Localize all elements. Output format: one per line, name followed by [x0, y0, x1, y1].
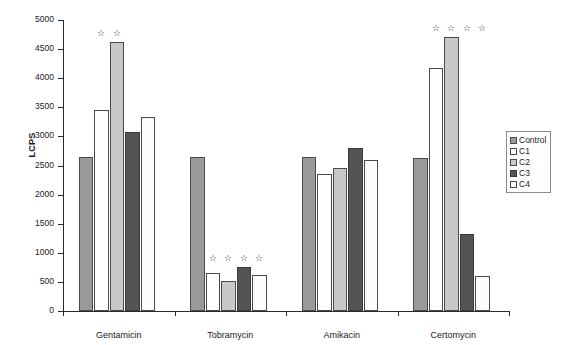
legend-item-label: C4 — [519, 180, 530, 189]
y-tick-label: 0 — [14, 305, 54, 315]
significance-star: ☆ — [253, 254, 265, 263]
x-axis-category-label: Gentamicin — [63, 330, 175, 340]
bar-tobramycin-c3 — [237, 267, 252, 311]
legend-swatch-icon — [510, 137, 517, 144]
y-tick-label: 2500 — [14, 160, 54, 170]
x-axis-category-label: Amikacin — [286, 330, 398, 340]
legend-item-c1[interactable]: C1 — [510, 146, 546, 156]
bar-gentamicin-c4 — [141, 117, 156, 311]
legend-item-label: C3 — [519, 169, 530, 178]
y-tick-mark — [58, 166, 64, 167]
bar-chart-figure: LCPS 50004500400035003000250020001500100… — [0, 0, 572, 345]
bar-amikacin-c2 — [333, 168, 348, 311]
bar-amikacin-c3 — [348, 148, 363, 311]
significance-star: ☆ — [238, 254, 250, 263]
bar-amikacin-c4 — [364, 160, 379, 311]
legend-swatch-icon — [510, 181, 517, 188]
significance-star: ☆ — [95, 29, 107, 38]
y-tick-label: 1000 — [14, 247, 54, 257]
legend-swatch-icon — [510, 159, 517, 166]
chart-legend: ControlC1C2C3C4 — [506, 131, 551, 193]
legend-item-label: Control — [519, 136, 546, 145]
legend-item-control[interactable]: Control — [510, 135, 546, 145]
y-tick-mark — [58, 224, 64, 225]
y-tick-mark — [58, 49, 64, 50]
y-tick-mark — [58, 136, 64, 137]
significance-star: ☆ — [111, 29, 123, 38]
x-axis-category-label: Tobramycin — [175, 330, 287, 340]
significance-star: ☆ — [476, 24, 488, 33]
y-tick-label: 4000 — [14, 72, 54, 82]
y-tick-mark — [58, 253, 64, 254]
y-tick-label: 5000 — [14, 14, 54, 24]
bar-gentamicin-c1 — [94, 110, 109, 311]
y-tick-mark — [58, 195, 64, 196]
bar-tobramycin-c2 — [221, 281, 236, 311]
x-axis-tick — [286, 311, 287, 316]
y-tick-label: 1500 — [14, 218, 54, 228]
bar-certomycin-c1 — [429, 68, 444, 311]
x-axis-category-label: Certomycin — [398, 330, 510, 340]
x-axis-tick — [63, 311, 64, 316]
bar-certomycin-c4 — [475, 276, 490, 311]
significance-star: ☆ — [207, 254, 219, 263]
y-tick-label: 3000 — [14, 130, 54, 140]
bar-tobramycin-control — [190, 157, 205, 311]
y-tick-mark — [58, 107, 64, 108]
bar-gentamicin-c3 — [125, 132, 140, 311]
bar-certomycin-c2 — [444, 37, 459, 311]
bar-tobramycin-c4 — [252, 275, 267, 311]
x-axis-tick — [509, 311, 510, 316]
legend-swatch-icon — [510, 148, 517, 155]
x-axis-tick — [175, 311, 176, 316]
legend-item-c3[interactable]: C3 — [510, 168, 546, 178]
plot-area: 5000450040003500300025002000150010005000… — [63, 20, 509, 311]
significance-star: ☆ — [461, 24, 473, 33]
legend-item-label: C2 — [519, 158, 530, 167]
legend-item-label: C1 — [519, 147, 530, 156]
bar-gentamicin-control — [79, 157, 94, 311]
legend-item-c4[interactable]: C4 — [510, 179, 546, 189]
legend-swatch-icon — [510, 170, 517, 177]
y-tick-label: 500 — [14, 276, 54, 286]
y-tick-label: 4500 — [14, 43, 54, 53]
significance-star: ☆ — [430, 24, 442, 33]
bar-certomycin-c3 — [460, 234, 475, 311]
bar-certomycin-control — [413, 158, 428, 311]
significance-star: ☆ — [222, 254, 234, 263]
bar-gentamicin-c2 — [110, 42, 125, 311]
bar-tobramycin-c1 — [206, 273, 221, 311]
bar-amikacin-control — [302, 157, 317, 311]
significance-star: ☆ — [445, 24, 457, 33]
y-tick-mark — [58, 20, 64, 21]
y-tick-label: 2000 — [14, 189, 54, 199]
legend-item-c2[interactable]: C2 — [510, 157, 546, 167]
x-axis-tick — [398, 311, 399, 316]
bar-amikacin-c1 — [317, 174, 332, 311]
y-tick-mark — [58, 78, 64, 79]
y-tick-mark — [58, 282, 64, 283]
y-tick-label: 3500 — [14, 101, 54, 111]
